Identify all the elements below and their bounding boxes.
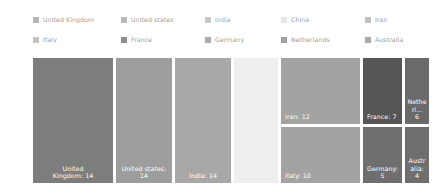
- tile-label-line1: Italy: 10: [285, 172, 358, 180]
- legend-label: United Kingdom: [43, 16, 94, 24]
- legend-row-1: United KingdomUnited statesIndiaChinaIra…: [33, 10, 430, 30]
- treemap-tile-france[interactable]: France: 7: [363, 58, 402, 124]
- legend-swatch-icon: [205, 37, 211, 43]
- treemap-tile-united-kingdom[interactable]: UnitedKingdom: 14: [33, 58, 113, 183]
- legend-label: Germany: [215, 36, 244, 44]
- tile-label-line2: 6: [407, 113, 427, 121]
- legend-item-united-states[interactable]: United states: [121, 10, 205, 30]
- legend-item-germany[interactable]: Germany: [205, 30, 281, 50]
- tile-label-line1: Iran: 12: [285, 113, 358, 121]
- tile-label-line2: 14: [118, 172, 170, 180]
- tile-label: UnitedKingdom: 14: [33, 165, 113, 180]
- legend-item-italy[interactable]: Italy: [33, 30, 121, 50]
- treemap-tiles: UnitedKingdom: 14United states:14India: …: [33, 58, 429, 183]
- legend-swatch-icon: [281, 17, 287, 23]
- legend-item-france[interactable]: France: [121, 30, 205, 50]
- legend-item-iran[interactable]: Iran: [365, 10, 425, 30]
- legend-swatch-icon: [121, 37, 127, 43]
- legend-swatch-icon: [365, 37, 371, 43]
- tile-label: Iran: 12: [281, 113, 360, 121]
- tile-label-line1: Australia:: [407, 157, 427, 172]
- tile-label: United states:14: [116, 165, 172, 180]
- legend-swatch-icon: [205, 17, 211, 23]
- tile-label: France: 7: [363, 113, 402, 121]
- legend-swatch-icon: [365, 17, 371, 23]
- chart-legend: United KingdomUnited statesIndiaChinaIra…: [33, 10, 430, 50]
- legend-swatch-icon: [33, 37, 39, 43]
- legend-item-india[interactable]: India: [205, 10, 281, 30]
- treemap-tile-netherlands[interactable]: Netherl...6: [405, 58, 429, 124]
- legend-swatch-icon: [33, 17, 39, 23]
- tile-label-line1: Germany: 5: [365, 165, 400, 180]
- treemap-tile-italy[interactable]: Italy: 10: [281, 127, 360, 183]
- legend-label: India: [215, 16, 231, 24]
- treemap-tile-united-states[interactable]: United states:14: [116, 58, 172, 183]
- tile-label-line1: Netherl...: [407, 98, 427, 113]
- legend-item-china[interactable]: China: [281, 10, 365, 30]
- tile-label: China: 14: [234, 172, 278, 180]
- tile-label-line1: United states:: [118, 165, 170, 173]
- legend-item-australia[interactable]: Australia: [365, 30, 425, 50]
- tile-label: Italy: 10: [281, 172, 360, 180]
- tile-label-line1: United: [35, 165, 111, 173]
- treemap-chart: United KingdomUnited statesIndiaChinaIra…: [0, 0, 443, 194]
- legend-swatch-icon: [281, 37, 287, 43]
- legend-label: Netherlands: [291, 36, 330, 44]
- legend-label: United states: [131, 16, 174, 24]
- legend-label: Italy: [43, 36, 57, 44]
- treemap-tile-australia[interactable]: Australia:4: [405, 127, 429, 183]
- tile-label-line2: 4: [407, 172, 427, 180]
- legend-item-united-kingdom[interactable]: United Kingdom: [33, 10, 121, 30]
- treemap-tile-iran[interactable]: Iran: 12: [281, 58, 360, 124]
- tile-label-line1: China: 14: [236, 172, 276, 180]
- tile-label: Netherl...6: [405, 98, 429, 121]
- legend-row-2: ItalyFranceGermanyNetherlandsAustralia: [33, 30, 430, 50]
- tile-label: Germany: 5: [363, 165, 402, 180]
- tile-label-line1: France: 7: [367, 113, 400, 121]
- treemap-tile-india[interactable]: India: 14: [175, 58, 231, 183]
- tile-label-line2: Kingdom: 14: [35, 172, 111, 180]
- tile-label: India: 14: [175, 172, 231, 180]
- legend-item-netherlands[interactable]: Netherlands: [281, 30, 365, 50]
- tile-label-line1: India: 14: [177, 172, 229, 180]
- treemap-tile-china[interactable]: China: 14: [234, 58, 278, 183]
- treemap-tile-germany[interactable]: Germany: 5: [363, 127, 402, 183]
- legend-label: France: [131, 36, 152, 44]
- legend-swatch-icon: [121, 17, 127, 23]
- legend-label: Iran: [375, 16, 387, 24]
- tile-label: Australia:4: [405, 157, 429, 180]
- legend-label: China: [291, 16, 309, 24]
- legend-label: Australia: [375, 36, 403, 44]
